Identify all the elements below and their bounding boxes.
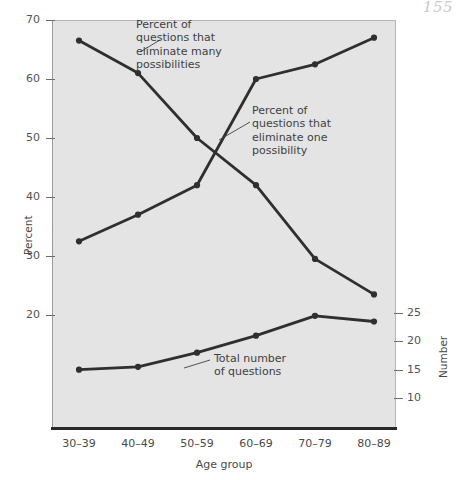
page-number: 155 [423, 0, 453, 16]
annotation-eliminate-many: Percent of questions that eliminate many… [136, 18, 244, 72]
y2-tick-mark-10 [394, 398, 403, 399]
y2-tick-mark-15 [394, 370, 403, 371]
x-axis-title: Age group [184, 458, 264, 471]
annotation-eliminate-one: Percent of questions that eliminate one … [252, 104, 360, 158]
y-tick-label-60: 60 [16, 72, 40, 85]
y-tick-label-50: 50 [16, 131, 40, 144]
x-tick-label-70-79: 70–79 [285, 437, 345, 450]
y2-tick-label-25: 25 [407, 306, 421, 319]
y-tick-mark-40 [46, 197, 55, 198]
y2-tick-mark-20 [394, 341, 403, 342]
y2-tick-label-20: 20 [407, 334, 421, 347]
y-tick-label-40: 40 [16, 190, 40, 203]
y-tick-mark-50 [46, 138, 55, 139]
y-tick-label-70: 70 [16, 13, 40, 26]
y2-tick-mark-25 [394, 313, 403, 314]
annotation-total-questions: Total number of questions [214, 352, 318, 379]
x-tick-label-40-49: 40–49 [108, 437, 168, 450]
y-axis-title: Percent [22, 215, 34, 255]
y2-axis-title: Number [437, 336, 449, 378]
figure-container: 155 70 60 50 40 30 20 Percent 25 20 15 1… [0, 0, 459, 480]
y-tick-mark-20 [46, 315, 55, 316]
y2-tick-label-15: 15 [407, 363, 421, 376]
x-tick-label-50-59: 50–59 [167, 437, 227, 450]
x-tick-label-60-69: 60–69 [226, 437, 286, 450]
x-tick-label-80-89: 80–89 [344, 437, 404, 450]
x-tick-label-30-39: 30–39 [49, 437, 109, 450]
y-tick-mark-70 [46, 20, 55, 21]
x-axis-rule [51, 427, 397, 430]
y-tick-label-20: 20 [16, 308, 40, 321]
y-tick-mark-30 [46, 256, 55, 257]
y2-tick-label-10: 10 [407, 391, 421, 404]
y-tick-mark-60 [46, 79, 55, 80]
